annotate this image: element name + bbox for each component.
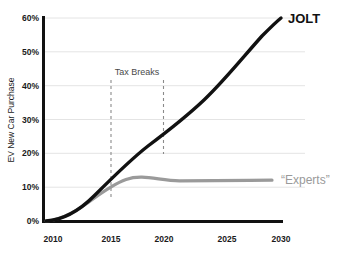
y-tick-0: 0%	[27, 216, 40, 226]
y-axis-title: EV New Car Purchase	[6, 77, 16, 162]
x-tick-2010: 2010	[44, 234, 63, 244]
y-tick-50: 50%	[22, 47, 39, 57]
x-tick-labels: 2010 2015 2020 2025 2030	[44, 234, 291, 244]
chart-figure: Tax Breaks JOLT “Experts” 60% 50% 40% 30…	[0, 0, 349, 257]
y-tick-60: 60%	[22, 13, 39, 23]
y-tick-20: 20%	[22, 148, 39, 158]
y-tick-30: 30%	[22, 115, 39, 125]
series-label-experts: “Experts”	[281, 173, 330, 187]
y-tick-labels: 60% 50% 40% 30% 20% 10% 0%	[22, 13, 39, 226]
tax-breaks-label: Tax Breaks	[115, 67, 160, 77]
series-line-experts	[46, 177, 272, 221]
y-tick-10: 10%	[22, 182, 39, 192]
x-tick-2025: 2025	[218, 234, 237, 244]
gridlines	[42, 18, 305, 187]
x-tick-2015: 2015	[102, 234, 121, 244]
x-tick-2020: 2020	[155, 234, 174, 244]
ev-adoption-line-chart: Tax Breaks JOLT “Experts” 60% 50% 40% 30…	[0, 0, 349, 257]
x-tick-2030: 2030	[272, 234, 291, 244]
series-label-jolt: JOLT	[288, 11, 320, 26]
y-tick-40: 40%	[22, 81, 39, 91]
